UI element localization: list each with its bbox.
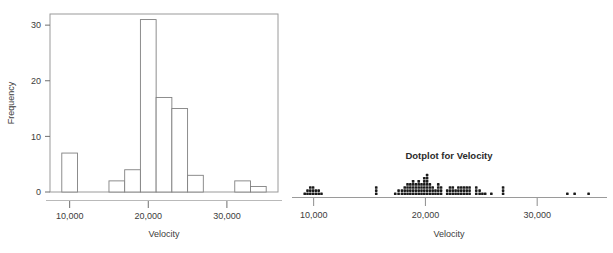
dotplot-dot <box>451 192 454 195</box>
dotplot-dot <box>446 192 449 195</box>
dotplot-dot <box>406 186 409 189</box>
dotplot-dots <box>303 174 589 195</box>
histogram-bar <box>172 109 188 192</box>
dotplot-dot <box>434 192 437 195</box>
dotplot-dot <box>417 186 420 189</box>
dotplot-dot <box>475 192 478 195</box>
dotplot-dot <box>502 186 505 189</box>
dotplot-dot <box>426 189 429 192</box>
dotplot-dot <box>375 189 378 192</box>
dotplot-dot <box>403 186 406 189</box>
histogram-bar <box>156 97 172 192</box>
dotplot-dot <box>468 186 471 189</box>
dotplot-dot <box>320 192 323 195</box>
dotplot-dot <box>431 189 434 192</box>
dotplot-dot <box>478 192 481 195</box>
dotplot-dot <box>317 192 320 195</box>
dotplot-dot <box>449 189 452 192</box>
dotplot-dot <box>465 192 468 195</box>
dotplot-dot <box>437 189 440 192</box>
dotplot-dot <box>420 192 423 195</box>
histogram-bar <box>140 20 156 192</box>
dotplot-dot <box>429 189 432 192</box>
dotplot-dot <box>449 186 452 189</box>
dotplot-dot <box>481 192 484 195</box>
dotplot-dot <box>440 186 443 189</box>
dotplot-dot <box>426 186 429 189</box>
histogram-x-axis-label: Velocity <box>148 229 180 239</box>
dotplot-dot <box>423 180 426 183</box>
dotplot-dot <box>417 192 420 195</box>
histogram-bar <box>250 186 266 192</box>
dotplot-x-tick-label: 30,000 <box>523 210 551 220</box>
dotplot-dot <box>412 180 415 183</box>
dotplot-dot <box>426 183 429 186</box>
dotplot-x-tick-label: 10,000 <box>300 210 328 220</box>
histogram-bar <box>235 181 251 192</box>
dotplot-dot <box>434 189 437 192</box>
histogram-x-tick-label: 20,000 <box>135 211 163 221</box>
histogram-bar <box>109 181 125 192</box>
dotplot-dot <box>429 192 432 195</box>
dotplot-dot <box>312 192 315 195</box>
dotplot-dot <box>409 192 412 195</box>
dotplot-dot <box>463 186 466 189</box>
histogram-chart: 0102030 10,00020,00030,000 Frequency Vel… <box>0 0 300 253</box>
histogram-panel: 0102030 10,00020,00030,000 Frequency Vel… <box>0 0 300 253</box>
dotplot-dot <box>312 189 315 192</box>
dotplot-dot <box>431 186 434 189</box>
dotplot-dot <box>437 183 440 186</box>
dotplot-dot <box>415 189 418 192</box>
dotplot-dot <box>423 177 426 180</box>
histogram-y-tick-label: 0 <box>36 187 41 197</box>
dotplot-dot <box>317 189 320 192</box>
dotplot-dot <box>454 189 457 192</box>
dotplot-dot <box>468 192 471 195</box>
dotplot-dot <box>587 192 590 195</box>
dotplot-dot <box>315 192 318 195</box>
dotplot-dot <box>375 186 378 189</box>
dotplot-dot <box>315 189 318 192</box>
dotplot-dot <box>417 189 420 192</box>
dotplot-dot <box>573 192 576 195</box>
dotplot-dot <box>401 192 404 195</box>
dotplot-dot <box>463 192 466 195</box>
histogram-y-tick-label: 20 <box>31 76 41 86</box>
dotplot-dot <box>412 183 415 186</box>
histogram-bar <box>188 175 204 192</box>
dotplot-dot <box>431 192 434 195</box>
dotplot-dot <box>460 192 463 195</box>
dotplot-dot <box>394 192 397 195</box>
dotplot-dot <box>465 186 468 189</box>
dotplot-dot <box>412 189 415 192</box>
dotplot-dot <box>454 192 457 195</box>
dotplot-dot <box>475 186 478 189</box>
dotplot-dot <box>468 189 471 192</box>
dotplot-dot <box>426 192 429 195</box>
histogram-y-axis-label: Frequency <box>6 81 16 124</box>
dotplot-dot <box>426 177 429 180</box>
dotplot-dot <box>463 189 466 192</box>
dotplot-x-tick-label: 20,000 <box>412 210 440 220</box>
dotplot-dot <box>423 192 426 195</box>
dotplot-dot <box>309 189 312 192</box>
dotplot-dot <box>475 189 478 192</box>
dotplot-dot <box>412 192 415 195</box>
dotplot-dot <box>449 192 452 195</box>
dotplot-dot <box>306 192 309 195</box>
dotplot-dot <box>502 189 505 192</box>
dotplot-dot <box>303 192 306 195</box>
dotplot-dot <box>457 189 460 192</box>
dotplot-dot <box>397 192 400 195</box>
histogram-x-axis: 10,00020,00030,000 <box>46 200 282 221</box>
dotplot-dot <box>423 189 426 192</box>
dotplot-x-axis: 10,00020,00030,000 <box>300 198 551 220</box>
dotplot-dot <box>451 189 454 192</box>
dotplot-dot <box>426 180 429 183</box>
dotplot-dot <box>401 189 404 192</box>
dotplot-dot <box>423 183 426 186</box>
dotplot-dot <box>460 186 463 189</box>
histogram-x-tick-label: 30,000 <box>213 211 241 221</box>
dotplot-dot <box>440 189 443 192</box>
dotplot-dot <box>406 189 409 192</box>
